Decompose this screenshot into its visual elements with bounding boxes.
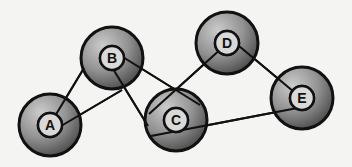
node-C-center: C [164, 108, 188, 132]
node-label: A [45, 117, 55, 133]
node-D-center: D [215, 31, 239, 55]
node-label: C [171, 112, 181, 128]
node-E-center: E [290, 86, 314, 110]
node-label: D [222, 35, 232, 51]
node-label: B [107, 50, 117, 66]
node-A-center: A [38, 113, 62, 137]
node-B-center: B [100, 46, 124, 70]
graph-diagram: ABCDE ABCDE [0, 0, 352, 167]
node-label: E [297, 90, 306, 106]
